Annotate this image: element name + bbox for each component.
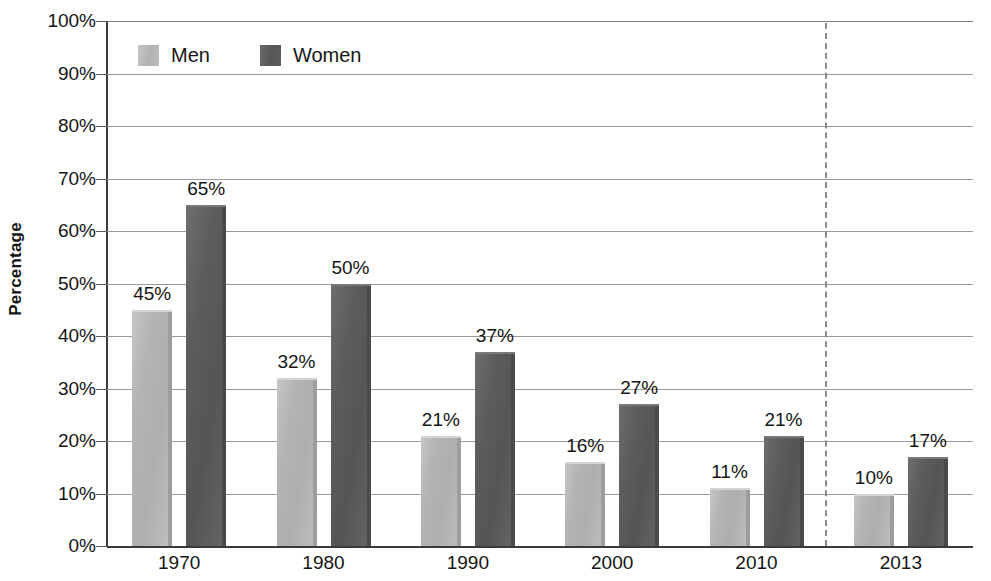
bar-men-1980[interactable] <box>277 378 317 546</box>
bar-value-label-women-2013: 17% <box>888 431 968 450</box>
bar-value-label-women-2010: 21% <box>744 410 824 429</box>
bar-women-1990[interactable] <box>475 352 515 546</box>
bar-value-label-women-1990: 37% <box>455 326 535 345</box>
bar-value-label-men-1990: 21% <box>401 410 481 429</box>
bar-face <box>710 488 750 546</box>
grouped-bar-chart: Percentage 100%90%80%70%60%50%40%30%20%1… <box>0 0 991 581</box>
gridline-90 <box>107 74 973 75</box>
bar-value-label-women-1980: 50% <box>311 258 391 277</box>
gridline-50 <box>107 284 973 285</box>
gridline-30 <box>107 389 973 390</box>
y-axis-tick-label: 100% <box>16 10 96 32</box>
gridline-20 <box>107 441 973 442</box>
gridline-0 <box>107 546 973 548</box>
bar-top-highlight <box>331 284 371 286</box>
bar-men-2000[interactable] <box>565 462 605 546</box>
x-axis-label-1980: 1980 <box>264 552 384 574</box>
y-tick-mark-40 <box>96 336 107 337</box>
bar-value-label-women-2000: 27% <box>599 378 679 397</box>
bar-face <box>186 205 226 546</box>
bar-top-highlight <box>186 205 226 207</box>
bar-face <box>331 284 371 547</box>
y-tick-mark-20 <box>96 441 107 442</box>
bar-top-highlight <box>710 488 750 490</box>
bar-face <box>854 494 894 547</box>
gridline-80 <box>107 126 973 127</box>
bar-women-1980[interactable] <box>331 284 371 547</box>
gridline-40 <box>107 336 973 337</box>
y-axis-tick-label: 80% <box>16 115 96 137</box>
bar-value-label-men-2010: 11% <box>690 462 770 481</box>
bar-value-label-men-2000: 16% <box>545 436 625 455</box>
bar-men-2010[interactable] <box>710 488 750 546</box>
bar-women-1970[interactable] <box>186 205 226 546</box>
legend-item-men[interactable]: Men <box>138 44 210 67</box>
y-tick-mark-80 <box>96 126 107 127</box>
bar-women-2000[interactable] <box>619 404 659 546</box>
y-axis-tick-label: 50% <box>16 273 96 295</box>
bar-top-highlight <box>132 310 172 312</box>
bar-top-highlight <box>277 378 317 380</box>
bar-value-label-men-1980: 32% <box>257 352 337 371</box>
bar-value-label-men-2013: 10% <box>834 468 914 487</box>
bar-face <box>277 378 317 546</box>
bar-value-label-women-1970: 65% <box>166 179 246 198</box>
men-swatch-icon <box>138 45 159 66</box>
legend-item-women[interactable]: Women <box>260 44 362 67</box>
legend-label: Men <box>171 44 210 67</box>
y-tick-mark-60 <box>96 231 107 232</box>
bar-women-2013[interactable] <box>908 457 948 546</box>
bar-women-2010[interactable] <box>764 436 804 546</box>
x-axis-label-1970: 1970 <box>119 552 239 574</box>
y-tick-mark-10 <box>96 494 107 495</box>
bar-men-2013[interactable] <box>854 494 894 547</box>
projection-divider-line <box>825 23 827 546</box>
bar-face <box>619 404 659 546</box>
bar-face <box>475 352 515 546</box>
y-tick-mark-70 <box>96 179 107 180</box>
bar-face <box>132 310 172 546</box>
bar-top-highlight <box>908 457 948 459</box>
y-axis-tick-label: 30% <box>16 378 96 400</box>
y-axis-tick-label: 40% <box>16 325 96 347</box>
y-axis-tick-label: 60% <box>16 220 96 242</box>
gridline-10 <box>107 494 973 495</box>
legend-label: Women <box>293 44 362 67</box>
women-swatch-icon <box>260 45 281 66</box>
bar-top-highlight <box>565 462 605 464</box>
bar-face <box>764 436 804 546</box>
y-axis-tick-label: 90% <box>16 63 96 85</box>
x-axis-label-1990: 1990 <box>408 552 528 574</box>
gridline-60 <box>107 231 973 232</box>
bar-top-highlight <box>854 494 894 496</box>
bar-top-highlight <box>421 436 461 438</box>
bar-face <box>908 457 948 546</box>
y-tick-mark-0 <box>96 546 107 547</box>
x-axis-label-2010: 2010 <box>697 552 817 574</box>
bar-face <box>421 436 461 546</box>
chart-legend: MenWomen <box>138 44 361 67</box>
y-axis-tick-label: 10% <box>16 483 96 505</box>
bar-top-highlight <box>764 436 804 438</box>
y-tick-mark-100 <box>96 21 107 22</box>
y-axis-tick-label: 0% <box>16 535 96 557</box>
bar-men-1990[interactable] <box>421 436 461 546</box>
bar-value-label-men-1970: 45% <box>112 284 192 303</box>
bar-top-highlight <box>475 352 515 354</box>
gridline-100 <box>107 21 973 22</box>
x-axis-label-2000: 2000 <box>552 552 672 574</box>
x-axis-label-2013: 2013 <box>841 552 961 574</box>
bar-face <box>565 462 605 546</box>
bar-men-1970[interactable] <box>132 310 172 546</box>
bar-top-highlight <box>619 404 659 406</box>
y-axis-tick-label: 20% <box>16 430 96 452</box>
y-axis-tick-label: 70% <box>16 168 96 190</box>
y-tick-mark-90 <box>96 74 107 75</box>
y-tick-mark-50 <box>96 284 107 285</box>
y-tick-mark-30 <box>96 389 107 390</box>
